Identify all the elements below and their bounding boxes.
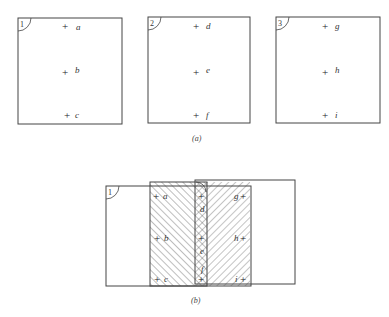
frame-number: 2 bbox=[150, 19, 154, 28]
svg-text:g: g bbox=[234, 191, 239, 201]
cross-marker-icon: + bbox=[240, 273, 246, 285]
point-h: + h bbox=[322, 65, 340, 78]
frame-3: 3 + g + h + i bbox=[276, 17, 380, 123]
cross-marker-icon: + bbox=[154, 273, 160, 285]
cross-marker-icon: + bbox=[240, 190, 246, 202]
svg-text:h: h bbox=[335, 65, 340, 75]
svg-text:a: a bbox=[163, 191, 168, 201]
point-d: + d bbox=[193, 20, 211, 32]
figure-b: 1 + a + b + c + d + e + f + g + h bbox=[106, 180, 295, 305]
cross-marker-icon: + bbox=[64, 109, 70, 121]
point-a: + a bbox=[62, 20, 81, 32]
svg-text:d: d bbox=[206, 21, 211, 31]
svg-text:e: e bbox=[200, 246, 204, 256]
point-f: + f bbox=[193, 109, 210, 121]
diagram-canvas: 1 + a + b + c 2 + d + bbox=[0, 0, 389, 317]
svg-text:d: d bbox=[200, 204, 205, 214]
frame-number: 3 bbox=[278, 19, 282, 28]
point-b: + b bbox=[62, 65, 80, 78]
point-i: + i bbox=[322, 109, 338, 121]
svg-text:h: h bbox=[234, 233, 239, 243]
cross-marker-icon: + bbox=[198, 232, 204, 244]
cross-marker-icon: + bbox=[322, 109, 328, 121]
svg-text:g: g bbox=[335, 21, 340, 31]
svg-text:i: i bbox=[335, 110, 338, 120]
cross-marker-icon: + bbox=[62, 66, 68, 78]
point-c: + c bbox=[64, 109, 79, 121]
svg-text:b: b bbox=[75, 65, 80, 75]
frame-2: 2 + d + e + f bbox=[148, 17, 250, 123]
cross-marker-icon: + bbox=[240, 232, 246, 244]
frame-number: 1 bbox=[108, 188, 112, 197]
caption-b: (b) bbox=[191, 296, 201, 305]
point-e: + e bbox=[193, 65, 210, 78]
cross-marker-icon: + bbox=[322, 66, 328, 78]
cross-marker-icon: + bbox=[193, 20, 199, 32]
cross-marker-icon: + bbox=[198, 273, 204, 285]
figure-a: 1 + a + b + c 2 + d + bbox=[18, 17, 380, 143]
cross-marker-icon: + bbox=[154, 232, 160, 244]
cross-marker-icon: + bbox=[62, 20, 68, 32]
svg-text:c: c bbox=[75, 110, 79, 120]
svg-text:a: a bbox=[76, 22, 81, 32]
frame-number: 1 bbox=[20, 20, 24, 29]
point-g: + g bbox=[322, 20, 340, 32]
frame-1: 1 + a + b + c bbox=[18, 18, 122, 124]
svg-text:c: c bbox=[164, 274, 168, 284]
cross-marker-icon: + bbox=[193, 66, 199, 78]
caption-a: (a) bbox=[192, 134, 202, 143]
svg-text:b: b bbox=[164, 233, 169, 243]
cross-marker-icon: + bbox=[198, 190, 204, 202]
svg-text:f: f bbox=[206, 110, 210, 120]
cross-marker-icon: + bbox=[153, 190, 159, 202]
cross-marker-icon: + bbox=[322, 20, 328, 32]
cross-marker-icon: + bbox=[193, 109, 199, 121]
svg-text:e: e bbox=[206, 65, 210, 75]
